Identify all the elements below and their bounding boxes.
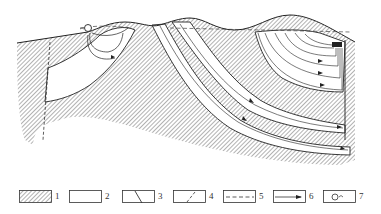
boundary-line-icon	[122, 190, 156, 204]
legend-item-3: 3	[122, 190, 172, 204]
legend-item-2: 2	[69, 190, 119, 204]
spring-icon	[323, 190, 357, 204]
legend-number: 5	[259, 190, 264, 202]
legend-item-5: 5	[223, 190, 273, 204]
legend-number: 2	[105, 190, 110, 202]
legend-number: 7	[359, 190, 364, 202]
legend-item-1: 1	[19, 190, 69, 204]
legend-number: 6	[309, 190, 314, 202]
fault-line-icon	[173, 190, 207, 204]
water-table-icon	[223, 190, 257, 204]
hatched-box-icon	[19, 190, 53, 204]
legend-number: 4	[209, 190, 214, 202]
legend-number: 1	[55, 190, 60, 202]
flow-arrow-icon	[273, 190, 307, 204]
blank-box-icon	[69, 190, 103, 204]
spring-icon	[80, 25, 92, 32]
legend-item-6: 6	[273, 190, 323, 204]
legend: 1 2 3 4 5 6	[0, 190, 381, 210]
geological-cross-section	[0, 0, 381, 190]
legend-item-7: 7	[323, 190, 373, 204]
discharge-zone	[332, 42, 342, 47]
legend-number: 3	[158, 190, 163, 202]
legend-item-4: 4	[173, 190, 223, 204]
